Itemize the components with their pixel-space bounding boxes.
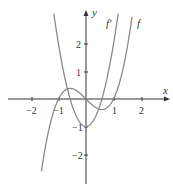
x-tick-label: −2	[26, 105, 37, 116]
x-axis-arrow-icon	[164, 97, 170, 102]
chart: −2 −1 1 2 2 1 −1 −2 x y f′ f	[0, 0, 173, 192]
f-label: f	[137, 17, 142, 29]
y-axis-label: y	[91, 6, 97, 18]
f-prime-label: f′	[106, 17, 112, 29]
x-tick-label: 1	[112, 105, 117, 116]
y-tick-label: −2	[72, 150, 83, 161]
y-tick-label: 2	[76, 39, 81, 50]
y-axis-arrow-icon	[84, 10, 89, 16]
x-axis-label: x	[162, 84, 168, 96]
y-tick-label: 1	[76, 67, 81, 78]
curve-f	[41, 17, 131, 172]
x-tick-label: 2	[139, 105, 144, 116]
